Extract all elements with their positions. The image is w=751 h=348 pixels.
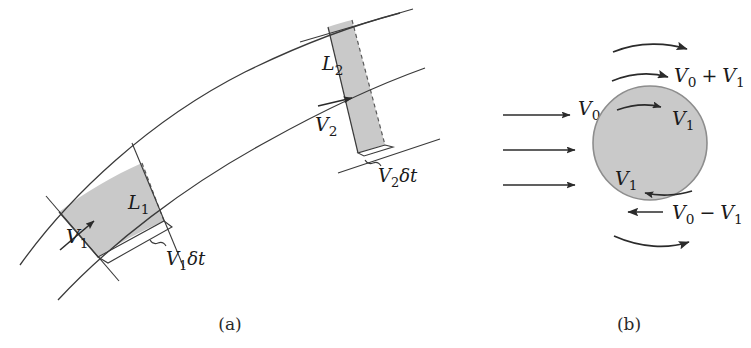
cylinder-body [593, 86, 707, 200]
figure-container: L1 L2 V1 V2 V1δt V2δt (a) V0 V0+V1 V1 V1 [0, 0, 751, 348]
caption-a: (a) [218, 314, 241, 334]
caption-b: (b) [617, 314, 641, 334]
figure-svg: L1 L2 V1 V2 V1δt V2δt (a) V0 V0+V1 V1 V1 [0, 0, 751, 348]
